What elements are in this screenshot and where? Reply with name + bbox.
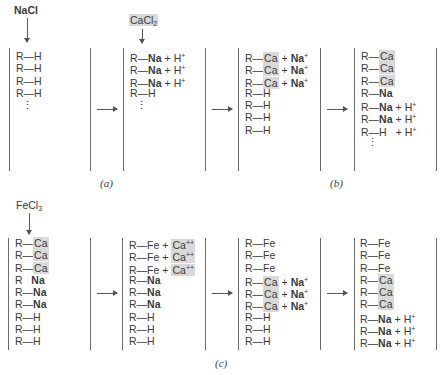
column-border [9, 48, 10, 171]
right-arrow-icon [212, 109, 232, 110]
resin-column-c1: R—Ca R—Ca R—Ca R Na R—Na R—Na R—HR—HR—H [15, 237, 49, 348]
down-arrow-icon [142, 29, 143, 43]
column-border [123, 48, 124, 171]
column-border [320, 48, 321, 171]
caption-b: (b) [330, 177, 343, 189]
right-arrow-icon [97, 109, 117, 110]
resin-column-c3: R—FeR—FeR—Fe R—Ca+Na+ R—Ca+Na+ R—Ca+Na+ … [245, 237, 308, 348]
right-arrow-icon [212, 293, 232, 294]
column-border [436, 238, 437, 350]
column-border [238, 238, 239, 350]
column-border [354, 48, 355, 171]
column-border [354, 238, 355, 350]
down-arrow-icon [29, 213, 30, 234]
column-border [205, 48, 206, 171]
column-border [90, 238, 91, 350]
resin-column-c2: R—Fe+Ca++ R—Fe+Ca++ R—Fe+Ca++ R—Na R—Na … [129, 237, 195, 348]
column-border [436, 48, 437, 171]
resin-column-b1: R—Ca+Na+ R—Ca+Na+ R—Ca+Na+ R—HR—HR—HR—H [245, 50, 308, 136]
column-border [238, 48, 239, 171]
column-border [8, 238, 9, 350]
column-border [122, 238, 123, 350]
right-arrow-icon [97, 293, 117, 294]
column-border [205, 238, 206, 350]
column-border [90, 48, 91, 171]
resin-column-a2: R—Na+H+ R—Na+H+ R—Na+H+ R—H ⋮ [130, 50, 185, 111]
reagent-nacl: NaCl [14, 4, 38, 16]
right-arrow-icon [327, 293, 347, 294]
reagent-fecl3: FeCl3 [16, 199, 42, 212]
right-arrow-icon [327, 109, 347, 110]
reagent-cacl2: CaCl2 [129, 14, 158, 27]
resin-column-c4: R—FeR—FeR—Fe R—Ca R—Ca R—Ca R—Na+H+ R—Na… [360, 237, 415, 348]
resin-column-a1: R—HR—HR—HR—H ⋮ [16, 50, 42, 111]
resin-column-b2: R—Ca R—Ca R—Ca R—Na R—Na+H+ R—Na+H+ R—H+… [361, 50, 417, 148]
column-border [320, 238, 321, 350]
caption-a: (a) [100, 177, 113, 189]
down-arrow-icon [27, 18, 28, 42]
caption-c: (c) [215, 357, 227, 369]
